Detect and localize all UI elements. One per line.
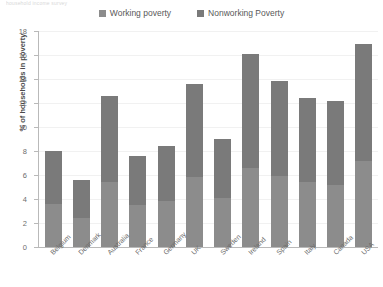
legend-swatch-icon xyxy=(197,10,204,17)
bar-segment-nonworking-poverty[interactable] xyxy=(129,156,146,205)
y-axis-tick-label: 12 xyxy=(19,99,27,108)
x-axis-label-cell: Sweden xyxy=(209,249,237,287)
bar-group[interactable] xyxy=(152,31,180,247)
bar-group[interactable] xyxy=(293,31,321,247)
legend-swatch-icon xyxy=(99,10,106,17)
y-axis-tick-label: 18 xyxy=(19,27,27,36)
bar-segment-nonworking-poverty[interactable] xyxy=(158,146,175,201)
legend-item-nonworking-poverty[interactable]: Nonworking Poverty xyxy=(197,8,284,18)
y-axis-tick-label: 14 xyxy=(19,75,27,84)
bar-group[interactable] xyxy=(322,31,350,247)
bar-segment-working-poverty[interactable] xyxy=(299,182,316,247)
bar-stack[interactable] xyxy=(129,156,146,247)
bar-segment-nonworking-poverty[interactable] xyxy=(73,180,90,218)
y-axis-tick-label: 6 xyxy=(23,171,27,180)
x-axis-label-cell: Spain xyxy=(265,249,293,287)
bar-segment-working-poverty[interactable] xyxy=(242,168,259,247)
bar-segment-working-poverty[interactable] xyxy=(271,176,288,247)
bar-group[interactable] xyxy=(209,31,237,247)
y-axis-tick: 8 xyxy=(34,151,38,152)
y-axis-tick: 16 xyxy=(34,55,38,56)
x-axis-label-cell: Ireland xyxy=(237,249,265,287)
bar-stack[interactable] xyxy=(158,146,175,247)
bar-group[interactable] xyxy=(39,31,67,247)
x-axis-label-cell: Italy xyxy=(293,249,321,287)
y-axis-tick: 0 xyxy=(34,247,38,248)
stacked-bar-chart: household income survey Working poverty … xyxy=(0,0,383,287)
plot-area: 024681012141618 xyxy=(39,31,378,247)
bar-stack[interactable] xyxy=(271,81,288,247)
bar-segment-working-poverty[interactable] xyxy=(186,177,203,247)
x-axis-label-cell: Denmark xyxy=(67,249,95,287)
y-axis-tick-label: 0 xyxy=(23,243,27,252)
bar-stack[interactable] xyxy=(73,180,90,247)
x-axis-label-cell: USA xyxy=(350,249,378,287)
y-axis-tick: 4 xyxy=(34,199,38,200)
x-axis-label-cell: Belgium xyxy=(39,249,67,287)
chart-legend: Working poverty Nonworking Poverty xyxy=(0,8,383,18)
bar-stack[interactable] xyxy=(214,139,231,247)
bar-group[interactable] xyxy=(67,31,95,247)
bar-segment-working-poverty[interactable] xyxy=(101,182,118,247)
bar-segment-working-poverty[interactable] xyxy=(355,161,372,247)
bar-segment-nonworking-poverty[interactable] xyxy=(45,151,62,204)
legend-label: Working poverty xyxy=(110,8,171,18)
bar-segment-nonworking-poverty[interactable] xyxy=(271,81,288,176)
y-axis-tick: 18 xyxy=(34,31,38,32)
bar-segment-working-poverty[interactable] xyxy=(327,185,344,247)
y-axis-tick: 2 xyxy=(34,223,38,224)
y-axis-tick-label: 4 xyxy=(23,195,27,204)
y-axis-tick: 14 xyxy=(34,79,38,80)
bar-series-layer xyxy=(39,31,378,247)
bar-segment-nonworking-poverty[interactable] xyxy=(186,84,203,178)
y-axis-tick-label: 10 xyxy=(19,123,27,132)
bar-stack[interactable] xyxy=(242,54,259,247)
x-axis-labels: BelgiumDenmarkAustraliaFranceGermanyUKSw… xyxy=(39,249,378,287)
bar-group[interactable] xyxy=(180,31,208,247)
y-axis-tick-label: 8 xyxy=(23,147,27,156)
bar-segment-nonworking-poverty[interactable] xyxy=(327,101,344,185)
bar-segment-nonworking-poverty[interactable] xyxy=(299,98,316,182)
bar-group[interactable] xyxy=(237,31,265,247)
bar-stack[interactable] xyxy=(299,98,316,247)
y-axis-tick: 12 xyxy=(34,103,38,104)
bar-group[interactable] xyxy=(124,31,152,247)
legend-item-working-poverty[interactable]: Working poverty xyxy=(99,8,171,18)
bar-stack[interactable] xyxy=(186,84,203,247)
y-axis-tick: 6 xyxy=(34,175,38,176)
y-axis-tick-label: 16 xyxy=(19,51,27,60)
bar-stack[interactable] xyxy=(101,96,118,247)
bar-group[interactable] xyxy=(265,31,293,247)
bar-segment-nonworking-poverty[interactable] xyxy=(101,96,118,182)
y-axis-tick: 10 xyxy=(34,127,38,128)
bar-segment-nonworking-poverty[interactable] xyxy=(214,139,231,198)
bar-stack[interactable] xyxy=(327,101,344,247)
x-axis-label-cell: France xyxy=(124,249,152,287)
bar-group[interactable] xyxy=(350,31,378,247)
clipped-top-caption: household income survey xyxy=(6,0,206,7)
bar-group[interactable] xyxy=(96,31,124,247)
x-axis-label-cell: Australia xyxy=(96,249,124,287)
bar-segment-nonworking-poverty[interactable] xyxy=(355,44,372,160)
bar-segment-nonworking-poverty[interactable] xyxy=(242,54,259,168)
bar-stack[interactable] xyxy=(45,151,62,247)
x-axis-label-cell: Canada xyxy=(322,249,350,287)
y-axis-tick-label: 2 xyxy=(23,219,27,228)
bar-stack[interactable] xyxy=(355,44,372,247)
x-axis-label-cell: UK xyxy=(180,249,208,287)
x-axis-label-cell: Germany xyxy=(152,249,180,287)
legend-label: Nonworking Poverty xyxy=(208,8,284,18)
